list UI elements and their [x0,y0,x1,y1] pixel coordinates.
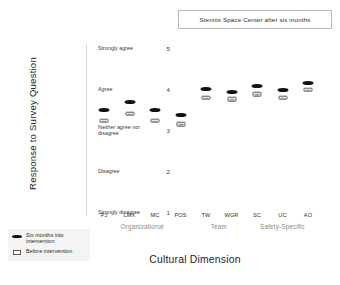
legend-item-after: Six months into intervention [11,232,88,244]
y-tick-label: Disagree [98,168,154,174]
y-tick-label: Neither agree nor disagree [98,124,154,137]
data-point-pj-s0 [99,108,110,112]
data-point-lmx-s0 [124,100,135,104]
data-point-uc-s1 [278,95,287,100]
y-tick-value: 5 [167,45,170,52]
legend-label-after: Six months into intervention [26,232,88,244]
data-point-pos-s1 [176,122,185,127]
data-point-wgr-s0 [226,90,237,94]
x-tick-label-pj: PJ [91,212,117,218]
x-tick-label-ao: AO [295,212,321,218]
data-point-pj-s1 [100,118,109,123]
open-rectangle-marker-icon [11,248,24,257]
y-tick-label: Strongly agree [98,45,154,51]
x-axis-title: Cultural Dimension [110,254,280,265]
y-tick-value: 2 [167,168,170,175]
x-tick-label-pos: POS [168,212,194,218]
data-point-lmx-s1 [125,111,134,116]
chart-legend: Six months into intervention Before inte… [8,229,90,261]
legend-item-before: Before intervention [11,248,88,257]
filled-ellipse-marker-icon [11,232,24,241]
data-point-mc-s1 [151,118,160,123]
y-tick-value: 4 [167,86,170,93]
data-point-pos-s0 [175,113,186,117]
group-label-safety-specific: Safety-Specific [243,223,323,230]
y-tick-label: Agree [98,86,154,92]
x-tick-label-tw: TW [193,212,219,218]
y-axis-title: Response to Survey Question [27,44,38,204]
data-point-uc-s0 [277,88,288,92]
data-point-wgr-s1 [227,97,236,102]
data-point-mc-s0 [150,108,161,112]
chart-figure: Stennis Space Center after six months Re… [0,0,340,285]
data-point-sc-s1 [253,92,262,97]
chart-title-box: Stennis Space Center after six months [178,10,332,29]
plot-area: Strongly agree5Agree4Neither agree nor d… [88,40,334,215]
data-point-ao-s1 [304,88,313,93]
chart-title: Stennis Space Center after six months [199,16,310,23]
data-point-tw-s1 [202,95,211,100]
x-tick-label-lmx: LMX [117,212,143,218]
x-tick-label-mc: MC [142,212,168,218]
data-point-sc-s0 [252,84,263,88]
x-tick-label-sc: SC [244,212,270,218]
group-label-organizational: Organizational [102,223,182,230]
y-axis-line [86,44,87,216]
data-point-ao-s0 [303,81,314,85]
legend-label-before: Before intervention [26,248,72,254]
x-tick-label-uc: UC [270,212,296,218]
data-point-tw-s0 [201,87,212,91]
y-tick-value: 3 [167,127,170,134]
x-tick-label-wgr: WGR [219,212,245,218]
